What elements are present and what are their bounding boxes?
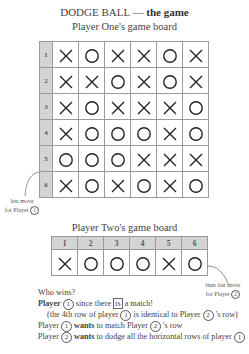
- goal-line-player-two: Player 2 wants to dodge all the horizont…: [38, 332, 245, 343]
- x-mark-icon: [162, 152, 178, 168]
- goal-text: to match Player: [95, 321, 150, 330]
- row-label: 5: [40, 146, 53, 172]
- player-one-board-label: Player One's game board: [0, 21, 249, 32]
- board-cell: [157, 120, 183, 146]
- o-mark-icon: [136, 178, 152, 194]
- board-cell: [104, 250, 130, 276]
- o-mark-icon: [84, 100, 100, 116]
- board-cell: [131, 172, 157, 198]
- x-mark-icon: [58, 48, 74, 64]
- board-cell: [79, 94, 105, 120]
- x-mark-icon: [136, 48, 152, 64]
- board-row: 5: [40, 146, 209, 172]
- x-mark-icon: [161, 256, 177, 272]
- answer-bold: Player: [38, 299, 61, 308]
- board-cell: [105, 42, 131, 68]
- column-label: 6: [182, 237, 208, 250]
- board-cell: [52, 250, 78, 276]
- o-mark-icon: [162, 48, 178, 64]
- x-mark-icon: [162, 152, 178, 168]
- annotation-arrow-player-one: [18, 170, 42, 200]
- o-mark-icon: [58, 152, 74, 168]
- o-mark-icon: [187, 256, 203, 272]
- x-mark-icon: [136, 152, 152, 168]
- o-mark-icon: [84, 178, 100, 194]
- player-two-badge: 2: [61, 332, 72, 343]
- o-mark-icon: [84, 152, 100, 168]
- x-mark-icon: [58, 74, 74, 90]
- x-mark-icon: [188, 48, 204, 64]
- player-two-badge: 2: [150, 321, 161, 332]
- board-row: 2: [40, 68, 209, 94]
- board-cell: [183, 94, 209, 120]
- x-mark-icon: [57, 256, 73, 272]
- o-mark-icon: [84, 100, 100, 116]
- goal-text: 's row: [161, 321, 183, 330]
- player-one-badge: 1: [120, 310, 131, 321]
- column-label: 4: [130, 237, 156, 250]
- board-cell: [157, 94, 183, 120]
- boxed-word: is: [113, 298, 122, 309]
- x-mark-icon: [110, 48, 126, 64]
- board-cell: [105, 68, 131, 94]
- o-mark-icon: [110, 152, 126, 168]
- x-mark-icon: [110, 100, 126, 116]
- detail-text: 's row): [214, 310, 238, 319]
- title-text: DODGE BALL —: [60, 6, 146, 18]
- x-mark-icon: [58, 126, 74, 142]
- board-row: 6: [40, 172, 209, 198]
- page-title: DODGE BALL — the game: [0, 6, 249, 18]
- x-mark-icon: [136, 100, 152, 116]
- player-two-board: 123456: [51, 236, 208, 276]
- player-two-badge: 2: [203, 310, 214, 321]
- answer-line: Player 1 since there is a match!: [38, 299, 245, 310]
- board-cell: [79, 146, 105, 172]
- board-cell: [157, 42, 183, 68]
- o-mark-icon: [135, 256, 151, 272]
- detail-line: (the 4th row of player 1 is identical to…: [38, 310, 245, 321]
- goal-bold: wants: [72, 321, 95, 330]
- x-mark-icon: [136, 48, 152, 64]
- column-header-row: 123456: [52, 237, 208, 250]
- x-mark-icon: [136, 152, 152, 168]
- x-mark-icon: [57, 256, 73, 272]
- player-two-board-label: Player Two's game board: [0, 222, 249, 233]
- x-mark-icon: [188, 74, 204, 90]
- board-cell: [105, 146, 131, 172]
- board-cell: [53, 146, 79, 172]
- o-mark-icon: [188, 100, 204, 116]
- x-mark-icon: [162, 126, 178, 142]
- board-cell: [53, 94, 79, 120]
- board-cell: [156, 250, 182, 276]
- board-row: 4: [40, 120, 209, 146]
- board-row: 3: [40, 94, 209, 120]
- player-one-board: 123456: [39, 41, 209, 198]
- o-mark-icon: [188, 178, 204, 194]
- x-mark-icon: [136, 74, 152, 90]
- board-cell: [157, 68, 183, 94]
- o-mark-icon: [136, 126, 152, 142]
- annotation-player-one: last move for Player 1: [0, 198, 44, 215]
- o-mark-icon: [162, 74, 178, 90]
- x-mark-icon: [58, 178, 74, 194]
- o-mark-icon: [84, 48, 100, 64]
- board-cell: [131, 94, 157, 120]
- detail-text: is identical to Player: [131, 310, 202, 319]
- board-cell: [130, 250, 156, 276]
- board-cell: [131, 120, 157, 146]
- board-cell: [53, 120, 79, 146]
- o-mark-icon: [110, 152, 126, 168]
- o-mark-icon: [110, 74, 126, 90]
- question: Who wins?: [38, 288, 245, 299]
- player-one-badge: 1: [63, 299, 74, 310]
- o-mark-icon: [110, 126, 126, 142]
- column-label: 3: [104, 237, 130, 250]
- x-mark-icon: [84, 74, 100, 90]
- x-mark-icon: [188, 74, 204, 90]
- column-label: 5: [156, 237, 182, 250]
- x-mark-icon: [58, 48, 74, 64]
- goal-line-player-one: Player 1 wants to match Player 2 's row: [38, 321, 245, 332]
- column-label: 1: [52, 237, 78, 250]
- x-mark-icon: [162, 100, 178, 116]
- x-mark-icon: [188, 152, 204, 168]
